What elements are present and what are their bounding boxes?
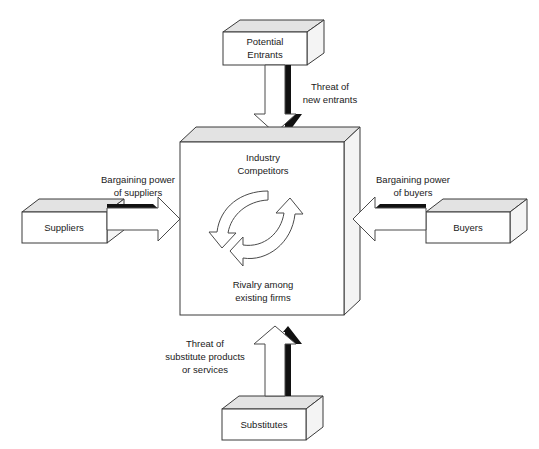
threat-of-new-entrants-label-line2: new entrants [303,94,358,105]
industry-competitors-top-face [180,127,360,142]
buyers-label: Buyers [453,222,483,233]
industry-competitors-title-line1: Industry [246,152,280,163]
bargaining-power-of-suppliers-label-line1: Bargaining power [101,174,175,185]
threat-of-substitutes-arrow[interactable]: Threat of substitute products or service… [165,326,302,396]
bargaining-power-of-suppliers-label-line2: of suppliers [114,187,163,198]
potential-entrants-node[interactable]: Potential Entrants [223,20,324,65]
industry-competitors-subtitle-line2: existing firms [235,292,291,303]
bargaining-power-of-buyers-arrow-body [353,197,426,241]
bargaining-power-of-buyers-label-line1: Bargaining power [376,174,450,185]
five-forces-svg: Potential Entrants Threat of new entrant… [0,0,539,449]
threat-of-substitutes-label-line1: Threat of [186,338,224,349]
bargaining-power-of-buyers-label-line2: of buyers [393,187,432,198]
buyers-node[interactable]: Buyers [426,199,527,243]
industry-competitors-node[interactable]: Industry Competitors Rivalry among exist… [180,127,360,315]
potential-entrants-label-line2: Entrants [247,49,283,60]
substitutes-node[interactable]: Substitutes [222,396,323,440]
industry-competitors-subtitle-line1: Rivalry among [233,279,294,290]
threat-of-substitutes-label-line2: substitute products [165,351,245,362]
threat-of-substitutes-label-line3: or services [182,364,228,375]
substitutes-label: Substitutes [241,419,288,430]
industry-competitors-title-line2: Competitors [237,165,288,176]
suppliers-label: Suppliers [44,222,84,233]
threat-of-new-entrants-label-line1: Threat of [311,81,349,92]
threat-of-new-entrants-arrow[interactable]: Threat of new entrants [254,65,357,133]
potential-entrants-label-line1: Potential [247,36,284,47]
diagram-canvas: Potential Entrants Threat of new entrant… [0,0,539,449]
